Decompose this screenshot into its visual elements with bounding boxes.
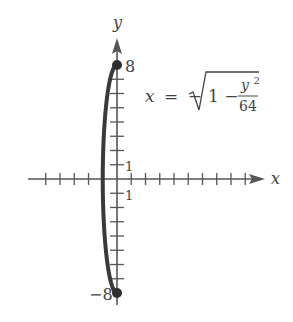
x-axis-label: x (271, 169, 280, 188)
equation-label: x = − 1 − y 2 64 (145, 72, 260, 114)
equation-denominator: 64 (239, 98, 257, 114)
y-tick-label-1: 1 (125, 159, 133, 174)
y-tick-label-8: 8 (125, 57, 135, 76)
endpoint-bottom-dot (112, 288, 122, 298)
y-axis: y (110, 13, 124, 305)
x-tick-label-1: 1 (125, 188, 133, 203)
equation-numerator: y 2 (240, 75, 260, 93)
endpoint-top-dot (112, 60, 122, 70)
graph: x y 8 −8 1 1 x = − 1 − y 2 64 (0, 0, 293, 322)
y-axis-label: y (112, 13, 123, 32)
equation-radicand-lead: 1 − (208, 86, 238, 106)
equation-lhs: x = − (145, 86, 202, 106)
y-tick-label-neg8: −8 (89, 285, 113, 304)
x-axis: x (28, 169, 280, 188)
